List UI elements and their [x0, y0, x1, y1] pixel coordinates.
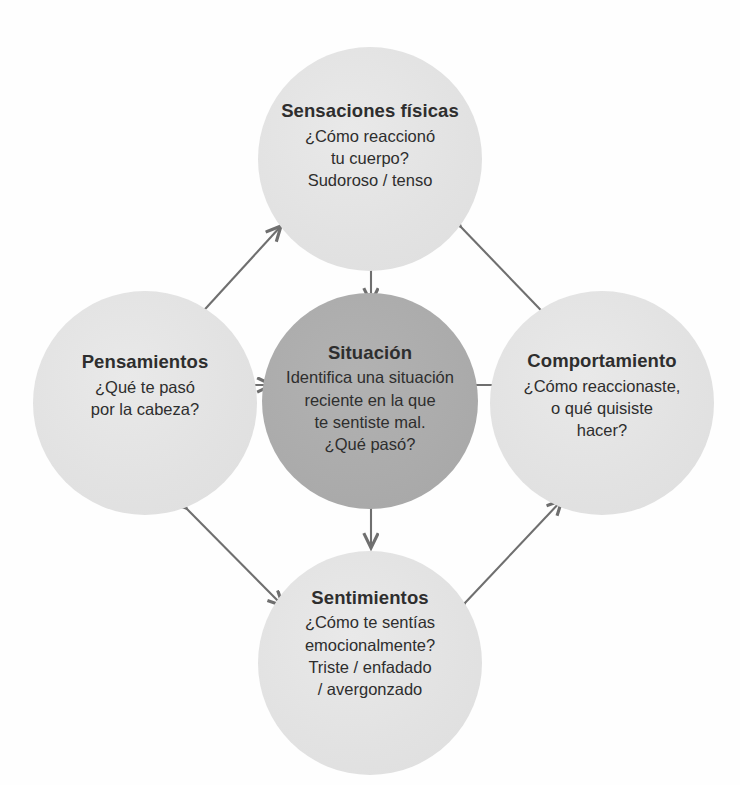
node-body: ¿Cómo reaccionaste, o qué quisiste hacer…	[524, 375, 681, 441]
node-situacion[interactable]: Situación Identifica una situación recie…	[262, 293, 478, 509]
node-text-block: Pensamientos ¿Qué te pasó por la cabeza?	[76, 350, 215, 420]
node-body: Identifica una situación reciente en la …	[286, 366, 454, 454]
node-sentimientos[interactable]: Sentimientos ¿Cómo te sentías emocionalm…	[258, 551, 482, 775]
node-title: Sensaciones físicas	[281, 99, 459, 123]
node-text-block: Situación Identifica una situación recie…	[280, 341, 460, 455]
node-body: ¿Cómo reaccionó tu cuerpo? Sudoroso / te…	[281, 125, 459, 191]
cbt-cycle-diagram: Sensaciones físicas ¿Cómo reaccionó tu c…	[0, 0, 740, 785]
connector-bottom-right	[464, 500, 562, 604]
node-text-block: Comportamiento ¿Cómo reaccionaste, o qué…	[518, 349, 687, 441]
node-text-block: Sentimientos ¿Cómo te sentías emocionalm…	[299, 586, 441, 700]
node-title: Comportamiento	[524, 349, 681, 373]
connector-bottom-left	[186, 508, 283, 606]
node-title: Pensamientos	[82, 350, 209, 374]
node-title: Situación	[286, 341, 454, 365]
node-text-block: Sensaciones físicas ¿Cómo reaccionó tu c…	[275, 99, 465, 191]
node-sensaciones-fisicas[interactable]: Sensaciones físicas ¿Cómo reaccionó tu c…	[258, 47, 482, 271]
node-pensamientos[interactable]: Pensamientos ¿Qué te pasó por la cabeza?	[33, 291, 257, 515]
node-body: ¿Cómo te sentías emocionalmente? Triste …	[305, 611, 435, 699]
node-title: Sentimientos	[305, 586, 435, 610]
node-body: ¿Qué te pasó por la cabeza?	[82, 376, 209, 420]
node-comportamiento[interactable]: Comportamiento ¿Cómo reaccionaste, o qué…	[490, 291, 714, 515]
